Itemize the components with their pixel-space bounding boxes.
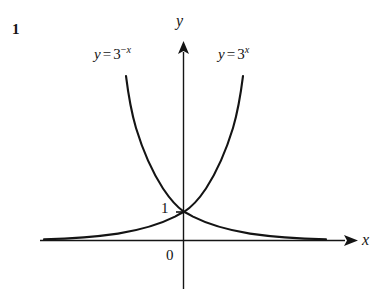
- curve-label-right-equals: =: [225, 46, 237, 62]
- figure-container: 1 y=3−x y=3x y x 1 0: [0, 0, 380, 289]
- curve-label-left-exponent-var: x: [126, 44, 131, 55]
- x-axis-arrowhead: [344, 235, 358, 246]
- curve-label-left-exponent: −x: [121, 44, 131, 55]
- graph-canvas: [0, 0, 380, 289]
- y-axis-label: y: [176, 13, 183, 29]
- curve-label-right: y=3x: [218, 47, 249, 62]
- curve-y-equals-3-to-the-x: [44, 76, 243, 239]
- y-intercept-label: 1: [161, 201, 169, 216]
- curve-label-left: y=3−x: [94, 47, 131, 62]
- curve-label-left-equals: =: [101, 46, 113, 62]
- origin-label: 0: [166, 248, 174, 263]
- curve-label-right-base: 3: [237, 46, 245, 62]
- curve-label-right-lhs: y: [218, 46, 225, 62]
- curve-label-right-exponent: x: [245, 44, 250, 55]
- curve-label-left-lhs: y: [94, 46, 101, 62]
- curve-y-equals-3-to-the-minus-x: [126, 76, 326, 239]
- curve-label-left-base: 3: [113, 46, 121, 62]
- curve-label-right-exponent-var: x: [245, 44, 250, 55]
- x-axis-label: x: [362, 232, 369, 248]
